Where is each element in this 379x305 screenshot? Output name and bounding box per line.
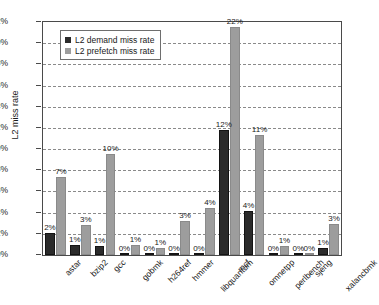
value-label-bzip2-prefetch: 3% xyxy=(80,215,92,224)
y-axis-tick-label: 14% xyxy=(0,102,8,111)
bar-sjeng-demand xyxy=(294,253,304,255)
bar-mcf-demand xyxy=(219,130,229,255)
value-label-hmmer-prefetch: 3% xyxy=(179,211,191,220)
bar-gobmk-demand xyxy=(120,253,130,255)
x-axis-label-xalancbmk: xalancbmk xyxy=(343,258,378,293)
bar-bzip2-demand xyxy=(70,245,80,255)
gridline xyxy=(43,107,341,108)
x-axis-label-hmmer: hmmer xyxy=(190,258,215,283)
value-label-sjeng-demand: 0% xyxy=(292,244,304,253)
y-axis-tick-mark xyxy=(36,127,41,128)
value-label-xalancbmk-demand: 1% xyxy=(317,238,329,247)
value-label-gobmk-demand: 0% xyxy=(119,244,131,253)
x-axis-label-astar: astar xyxy=(64,258,84,278)
y-axis-title: L2 miss rate xyxy=(8,67,22,163)
bar-gcc-demand xyxy=(95,246,105,255)
bar-h264ref-prefetch xyxy=(156,248,166,255)
value-label-mcf-demand: 12% xyxy=(216,120,232,129)
bar-libquantum-prefetch xyxy=(205,208,215,255)
bar-gobmk-prefetch xyxy=(131,245,141,255)
gridline xyxy=(43,170,341,171)
value-label-omnetpp-prefetch: 11% xyxy=(252,125,267,134)
bar-sjeng-prefetch xyxy=(305,253,315,255)
x-axis-labels: astarbzip2gccgobmkh264refhmmerlibquantum… xyxy=(42,258,342,305)
value-label-gcc-demand: 1% xyxy=(94,236,106,245)
y-axis-tick-mark xyxy=(36,148,41,149)
x-axis-label-h264ref: h264ref xyxy=(166,258,193,285)
gridline xyxy=(43,213,341,214)
y-axis-tick-label: 8% xyxy=(0,165,8,174)
value-label-h264ref-prefetch: 1% xyxy=(154,238,166,247)
gridline xyxy=(43,86,341,87)
value-label-gcc-prefetch: 10% xyxy=(103,144,119,153)
bar-libquantum-demand xyxy=(194,253,204,255)
x-axis-label-gobmk: gobmk xyxy=(140,258,164,282)
y-axis-tick-label: 0% xyxy=(0,250,8,259)
x-axis-label-bzip2: bzip2 xyxy=(89,258,110,279)
legend-label-prefetch: L2 prefetch miss rate xyxy=(75,46,154,56)
legend-swatch-demand-icon xyxy=(65,37,71,43)
bar-mcf-prefetch xyxy=(230,27,240,255)
gridline xyxy=(43,191,341,192)
bar-omnetpp-demand xyxy=(244,211,254,255)
plot-area: 2%7%1%3%1%10%0%1%0%1%0%3%0%4%12%22%4%11%… xyxy=(42,21,342,256)
y-axis-tick-mark xyxy=(36,212,41,213)
bar-hmmer-prefetch xyxy=(180,221,190,255)
y-axis-tick-mark xyxy=(36,190,41,191)
value-label-libquantum-demand: 0% xyxy=(193,244,205,253)
x-axis-label-gcc: gcc xyxy=(112,258,128,274)
y-axis-tick-mark xyxy=(36,85,41,86)
gridline xyxy=(43,149,341,150)
gridline xyxy=(43,128,341,129)
value-label-xalancbmk-prefetch: 3% xyxy=(328,214,340,223)
y-axis-tick-mark xyxy=(36,106,41,107)
value-label-perlbench-demand: 0% xyxy=(268,244,280,253)
bar-omnetpp-prefetch xyxy=(255,135,265,255)
value-label-astar-demand: 2% xyxy=(44,223,56,232)
bar-astar-demand xyxy=(45,233,55,255)
y-axis-tick-label: 6% xyxy=(0,186,8,195)
chart-legend: L2 demand miss rate L2 prefetch miss rat… xyxy=(60,30,161,60)
value-label-perlbench-prefetch: 1% xyxy=(279,236,291,245)
bar-gcc-prefetch xyxy=(106,154,116,255)
y-axis-tick-mark xyxy=(36,21,41,22)
value-label-h264ref-demand: 0% xyxy=(143,244,155,253)
value-label-sjeng-prefetch: 0% xyxy=(303,244,315,253)
legend-entry-prefetch: L2 prefetch miss rate xyxy=(65,45,154,56)
value-label-mcf-prefetch: 22% xyxy=(227,17,243,26)
y-axis-tick-mark xyxy=(36,254,41,255)
legend-label-demand: L2 demand miss rate xyxy=(75,35,154,45)
y-axis-tick-mark xyxy=(36,42,41,43)
legend-entry-demand: L2 demand miss rate xyxy=(65,34,154,45)
plot-inner: 2%7%1%3%1%10%0%1%0%1%0%3%0%4%12%22%4%11%… xyxy=(43,22,341,255)
bar-xalancbmk-prefetch xyxy=(329,224,339,255)
y-axis-tick-mark xyxy=(36,63,41,64)
y-axis-tick-mark xyxy=(36,233,41,234)
bar-bzip2-prefetch xyxy=(81,225,91,255)
y-axis-tick-label: 16% xyxy=(0,81,8,90)
gridline xyxy=(43,64,341,65)
bar-h264ref-demand xyxy=(145,253,155,255)
value-label-gobmk-prefetch: 1% xyxy=(130,235,142,244)
y-axis-tick-label: 2% xyxy=(0,229,8,238)
y-axis-tick-mark xyxy=(36,169,41,170)
value-label-bzip2-demand: 1% xyxy=(69,235,81,244)
bar-perlbench-demand xyxy=(269,253,279,255)
y-axis-tick-label: 20% xyxy=(0,38,8,47)
y-axis-tick-label: 22% xyxy=(0,17,8,26)
value-label-astar-prefetch: 7% xyxy=(55,167,67,176)
bar-xalancbmk-demand xyxy=(318,248,328,255)
bar-hmmer-demand xyxy=(169,253,179,255)
value-label-hmmer-demand: 0% xyxy=(168,244,180,253)
bar-perlbench-prefetch xyxy=(280,246,290,255)
value-label-libquantum-prefetch: 4% xyxy=(204,198,216,207)
y-axis-tick-label: 18% xyxy=(0,59,8,68)
y-axis-tick-label: 12% xyxy=(0,123,8,132)
bar-astar-prefetch xyxy=(56,177,66,255)
value-label-omnetpp-demand: 4% xyxy=(243,201,255,210)
legend-swatch-prefetch-icon xyxy=(65,48,71,54)
y-axis-tick-label: 4% xyxy=(0,208,8,217)
y-axis-tick-label: 10% xyxy=(0,144,8,153)
